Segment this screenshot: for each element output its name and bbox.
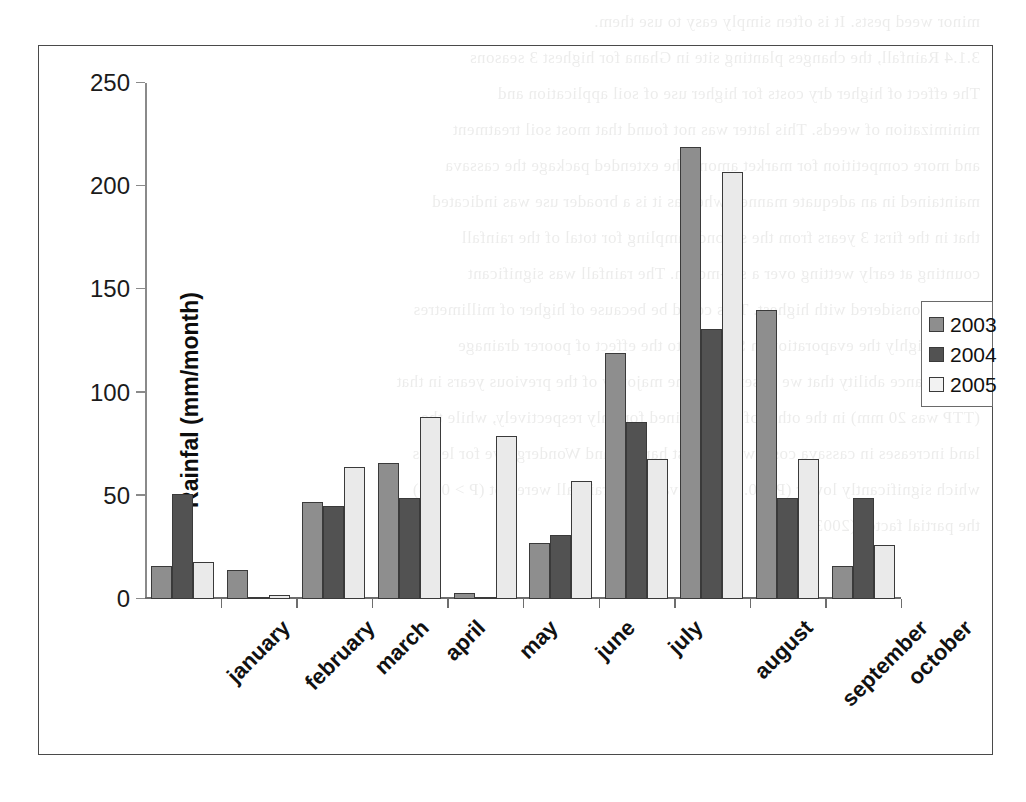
bar-september-2003	[756, 310, 777, 599]
x-axis-label-july: july	[663, 615, 708, 660]
bleed-line: minor weed pests. It is often simply eas…	[46, 4, 980, 40]
legend-swatch-icon	[929, 347, 944, 362]
x-axis-label-june: june	[590, 615, 640, 665]
bar-october-2004	[853, 498, 874, 599]
bar-july-2005	[647, 459, 668, 599]
x-axis-tick	[523, 599, 524, 608]
y-axis-tick-label: 150	[90, 275, 130, 303]
bar-group: may	[447, 83, 523, 599]
y-axis-tick-label: 100	[90, 379, 130, 407]
x-axis-tick	[750, 599, 751, 608]
x-axis-tick	[296, 599, 297, 608]
x-axis-label-february: february	[300, 615, 381, 696]
legend-item-2003: 2003	[929, 309, 986, 339]
y-axis-tick	[136, 82, 145, 83]
x-axis-tick	[674, 599, 675, 608]
bar-june-2004	[550, 535, 571, 599]
bar-january-2005	[193, 562, 214, 599]
bar-april-2003	[378, 463, 399, 599]
bar-october-2003	[832, 566, 853, 599]
bar-march-2005	[344, 467, 365, 599]
bar-february-2004	[248, 597, 269, 599]
y-axis-tick	[136, 288, 145, 289]
bar-august-2004	[701, 329, 722, 599]
bar-april-2004	[399, 498, 420, 599]
y-axis-tick	[136, 391, 145, 392]
x-axis-label-march: march	[369, 615, 434, 680]
legend-item-2004: 2004	[929, 339, 986, 369]
bar-may-2003	[454, 593, 475, 599]
y-axis-tick	[136, 598, 145, 599]
legend-swatch-icon	[929, 317, 944, 332]
x-axis-tick	[599, 599, 600, 608]
bar-group: march	[296, 83, 372, 599]
bar-june-2003	[529, 543, 550, 599]
legend-label: 2004	[950, 344, 997, 365]
chart-figure-frame: Rainfal (mm/month) 050100150200250 janua…	[38, 45, 993, 755]
bar-july-2003	[605, 353, 626, 599]
y-axis-tick-label: 50	[103, 482, 130, 510]
x-axis-tick	[372, 599, 373, 608]
y-axis-tick-label: 0	[117, 585, 130, 613]
x-axis-label-january: january	[222, 615, 296, 689]
x-axis-label-august: august	[749, 615, 818, 684]
x-axis-label-may: may	[514, 615, 564, 665]
bar-august-2003	[680, 147, 701, 599]
y-axis-tick-label: 200	[90, 172, 130, 200]
x-axis-label-april: april	[439, 615, 490, 666]
bar-march-2003	[302, 502, 323, 599]
bar-september-2005	[798, 459, 819, 599]
legend-item-2005: 2005	[929, 369, 986, 399]
bar-group: june	[523, 83, 599, 599]
y-axis-tick	[136, 494, 145, 495]
bar-january-2003	[151, 566, 172, 599]
bar-february-2005	[269, 595, 290, 599]
plot-area: 050100150200250 januaryfebruarymarchapri…	[145, 83, 901, 599]
y-axis-tick	[136, 185, 145, 186]
bar-group: january	[145, 83, 221, 599]
legend-label: 2003	[950, 314, 997, 335]
bar-group: february	[221, 83, 297, 599]
bar-february-2003	[227, 570, 248, 599]
bar-group: july	[599, 83, 675, 599]
bar-april-2005	[420, 417, 441, 599]
legend-label: 2005	[950, 374, 997, 395]
chart-legend: 2003 2004 2005	[921, 301, 993, 407]
y-axis-tick-label: 250	[90, 69, 130, 97]
legend-swatch-icon	[929, 377, 944, 392]
bar-september-2004	[777, 498, 798, 599]
bar-group: september	[750, 83, 826, 599]
bar-may-2005	[496, 436, 517, 599]
bar-august-2005	[722, 172, 743, 599]
x-axis-tick	[901, 599, 902, 608]
x-axis-tick	[825, 599, 826, 608]
bar-january-2004	[172, 494, 193, 599]
bar-october-2005	[874, 545, 895, 599]
bar-group: august	[674, 83, 750, 599]
x-axis-tick	[221, 599, 222, 608]
x-axis-tick	[447, 599, 448, 608]
bar-group: april	[372, 83, 448, 599]
bar-march-2004	[323, 506, 344, 599]
bar-july-2004	[626, 422, 647, 600]
bar-group: october	[825, 83, 901, 599]
bar-june-2005	[571, 481, 592, 599]
bar-may-2004	[475, 597, 496, 599]
